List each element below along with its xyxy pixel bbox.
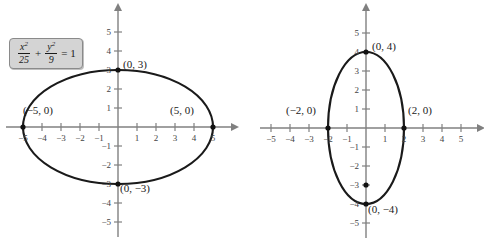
right-ytick-label: 2 [355, 85, 360, 95]
right-point-label-right: (2, 0) [408, 104, 432, 116]
right-xtick-label: −4 [285, 134, 295, 144]
right-point-label-left: (−2, 0) [286, 104, 316, 116]
right-vertex-left [325, 125, 330, 130]
right-xtick-label: −5 [266, 134, 276, 144]
left-ytick-label: −5 [101, 217, 111, 227]
right-ytick-label: 3 [355, 66, 360, 76]
left-xtick-label: 3 [173, 133, 178, 143]
left-ytick-label: 1 [107, 103, 112, 113]
right-x-tick-labels: −5 −4 −3 −2 −1 1 2 3 4 5 [266, 134, 464, 144]
left-xtick-label: −2 [75, 133, 85, 143]
left-graph-svg: −5 −4 −3 −2 −1 1 2 3 4 5 5 4 3 2 1 −1 −2… [0, 0, 242, 243]
left-eq-tail: = 1 [61, 48, 75, 59]
left-point-label-bottom: (0, −3) [120, 182, 150, 194]
left-point-label-top: (0, 3) [123, 58, 147, 70]
right-ytick-label: 1 [355, 104, 360, 114]
right-ytick-label: −4 [349, 199, 359, 209]
left-ytick-label: 4 [107, 46, 112, 56]
left-eq-den-1: 25 [17, 54, 31, 65]
left-equation-box: x2 25 + y2 9 = 1 [9, 38, 83, 69]
ellipse-figure: −5 −4 −3 −2 −1 1 2 3 4 5 5 4 3 2 1 −1 −2… [0, 0, 484, 243]
left-x-tick-labels: −5 −4 −3 −2 −1 1 2 3 4 5 [18, 133, 216, 143]
left-eq-plus: + [35, 48, 41, 59]
right-xtick-label: 2 [402, 134, 407, 144]
right-point-label-top: (0, 4) [372, 40, 396, 52]
right-xtick-label: 4 [440, 134, 445, 144]
left-ytick-label: −4 [101, 198, 111, 208]
right-graph-svg: −5 −4 −3 −2 −1 1 2 3 4 5 5 4 3 2 1 −1 −2… [242, 0, 484, 243]
left-point-label-left: (−5, 0) [23, 104, 53, 116]
right-ytick-label: −2 [349, 161, 359, 171]
right-ytick-label: −3 [349, 180, 359, 190]
left-xtick-label: −3 [56, 133, 66, 143]
left-point-label-right: (5, 0) [170, 104, 194, 116]
right-vertex-right [401, 125, 406, 130]
left-eq-den-2: 9 [47, 54, 56, 65]
right-xtick-label: 5 [459, 134, 464, 144]
right-graph-panel: −5 −4 −3 −2 −1 1 2 3 4 5 5 4 3 2 1 −1 −2… [242, 0, 484, 243]
left-ytick-label: −1 [101, 141, 111, 151]
left-xtick-label: −4 [37, 133, 47, 143]
left-eq-num-1: x2 [18, 42, 30, 54]
left-xtick-label: −5 [18, 133, 28, 143]
left-xtick-label: 5 [211, 133, 216, 143]
right-ytick-label: 5 [355, 28, 360, 38]
left-ytick-label: −3 [101, 179, 111, 189]
left-eq-num-2: y2 [45, 42, 57, 54]
left-xtick-label: 4 [192, 133, 197, 143]
right-ytick-label: 4 [355, 47, 360, 57]
left-xtick-label: 2 [154, 133, 159, 143]
left-graph-panel: −5 −4 −3 −2 −1 1 2 3 4 5 5 4 3 2 1 −1 −2… [0, 0, 242, 243]
left-equation-fraction-2: y2 9 [45, 42, 57, 65]
left-vertex-right [210, 124, 215, 129]
left-ytick-label: 3 [107, 65, 112, 75]
right-xtick-label: −3 [304, 134, 314, 144]
right-extra-point-0-neg3 [363, 182, 368, 187]
right-vertex-top [363, 49, 368, 54]
right-xtick-label: −2 [323, 134, 333, 144]
left-vertex-left [20, 124, 25, 129]
right-point-label-bottom: (0, −4) [368, 203, 398, 215]
left-ytick-label: 5 [107, 27, 112, 37]
left-vertex-top [115, 67, 120, 72]
left-xtick-label: 1 [135, 133, 140, 143]
left-ytick-label: 2 [107, 84, 112, 94]
right-xtick-label: 3 [421, 134, 426, 144]
right-ytick-label: −5 [349, 218, 359, 228]
right-xtick-label: 1 [383, 134, 388, 144]
right-ytick-label: −1 [349, 142, 359, 152]
left-equation-fraction-1: x2 25 [17, 42, 31, 65]
left-ytick-label: −2 [101, 160, 111, 170]
